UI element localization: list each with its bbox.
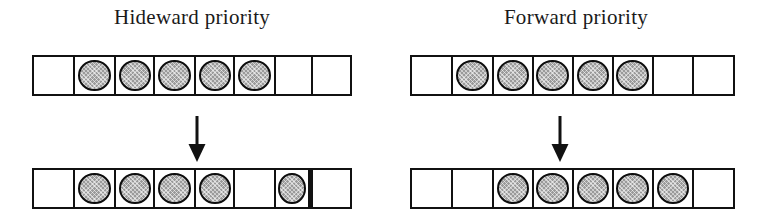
cell-forward-after-8[interactable] [694,170,733,207]
token-circle-icon [158,173,191,205]
token-circle-icon [657,173,689,205]
cell-strip-hideward-after [32,168,352,209]
cell-forward-before-6[interactable] [614,57,655,94]
panel-title-forward: Forward priority [384,4,768,30]
panel-forward-priority: Forward priority [384,0,768,217]
cell-forward-after-4[interactable] [534,170,575,207]
token-circle-icon [119,60,151,92]
cell-forward-after-2[interactable] [453,170,494,207]
cell-hideward-after-2[interactable] [75,170,115,207]
cell-hideward-before-4[interactable] [155,57,195,94]
cell-forward-before-4[interactable] [534,57,575,94]
cell-forward-before-7[interactable] [654,57,694,94]
cell-forward-after-1[interactable] [412,170,453,207]
cell-forward-after-5[interactable] [574,170,614,207]
cell-forward-before-3[interactable] [494,57,534,94]
token-circle-icon [497,60,529,92]
panel-hideward-priority: Hideward priority [0,0,384,217]
cell-hideward-after-8[interactable] [313,170,350,207]
token-circle-icon [119,173,151,205]
cell-forward-before-1[interactable] [412,57,453,94]
cell-strip-forward-before [410,55,735,96]
token-circle-icon [616,173,649,205]
cell-hideward-before-6[interactable] [235,57,275,94]
cell-hideward-before-1[interactable] [34,57,75,94]
cell-forward-after-6[interactable] [614,170,655,207]
cell-hideward-before-5[interactable] [196,57,236,94]
token-circle-icon [456,60,489,92]
down-arrow-icon-hideward [179,115,215,163]
cell-hideward-after-4[interactable] [155,170,195,207]
cell-forward-after-7[interactable] [654,170,694,207]
token-circle-icon [536,173,569,205]
cell-strip-hideward-before [32,55,352,96]
panel-title-hideward: Hideward priority [0,4,384,30]
token-circle-icon [78,60,111,92]
cell-hideward-before-8[interactable] [313,57,350,94]
cell-hideward-after-1[interactable] [34,170,75,207]
token-circle-icon [158,60,191,92]
cell-forward-before-8[interactable] [694,57,733,94]
token-circle-icon [497,173,529,205]
token-circle-icon [577,173,609,205]
token-circle-icon [238,60,271,92]
cell-forward-before-5[interactable] [574,57,614,94]
token-circle-icon [616,60,649,92]
cell-strip-forward-after [410,168,735,209]
cell-hideward-after-5[interactable] [196,170,236,207]
cell-hideward-after-7[interactable] [276,170,314,207]
token-circle-icon [199,173,231,205]
cell-hideward-before-3[interactable] [116,57,156,94]
cell-forward-after-3[interactable] [494,170,534,207]
token-circle-icon [278,173,306,205]
down-arrow-icon-forward [542,115,578,163]
token-circle-icon [577,60,609,92]
token-circle-icon [536,60,569,92]
cell-hideward-after-3[interactable] [116,170,156,207]
cell-hideward-before-7[interactable] [276,57,314,94]
cell-hideward-after-6[interactable] [235,170,275,207]
cell-hideward-before-2[interactable] [75,57,115,94]
token-circle-icon [199,60,231,92]
token-circle-icon [78,173,111,205]
cell-forward-before-2[interactable] [453,57,494,94]
